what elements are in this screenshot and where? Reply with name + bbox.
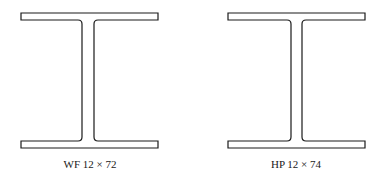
wf-section-shape [21, 13, 158, 148]
hp-section-label: HP 12 × 74 [236, 158, 356, 170]
wf-section-label: WF 12 × 72 [30, 158, 150, 170]
beam-sections-diagram [0, 0, 380, 178]
hp-section-shape [228, 13, 365, 148]
